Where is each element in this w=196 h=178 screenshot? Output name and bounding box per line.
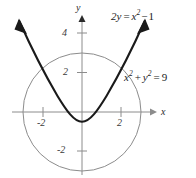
y-tick-label-4: 4: [62, 28, 67, 38]
parabola-left-arrow: [15, 19, 28, 35]
circle-eq-plus: +: [135, 71, 141, 83]
y-tick-label-2: 2: [63, 67, 68, 77]
x-axis-label: x: [161, 107, 165, 117]
x-axis: [12, 107, 157, 117]
parabola-equation-label: 2y=x2−1: [111, 9, 154, 22]
x-tick-label-neg2: -2: [37, 118, 45, 128]
x-tick-label-2: 2: [117, 118, 122, 128]
y-tick-label-neg2: -2: [57, 145, 65, 155]
parabola-eq-const: 1: [148, 10, 154, 22]
circle-eq-rhs: 9: [162, 71, 168, 83]
y-axis-label: y: [76, 3, 80, 13]
parabola-eq-rhs-exp: 2: [137, 8, 141, 17]
circle-eq-t2-exp: 2: [148, 69, 152, 78]
parabola-eq-minus: −: [141, 10, 147, 22]
circle-equation-label: x2+y2=9: [124, 70, 167, 83]
y-axis: [77, 15, 87, 175]
parabola-eq-lhs-var: y: [117, 10, 122, 22]
plot-canvas: [0, 0, 196, 178]
circle-eq-t1-exp: 2: [129, 69, 133, 78]
circle-eq-equals: =: [153, 71, 159, 83]
math-figure: y x -2 2 4 2 -2 2y=x2−1 x2+y2=9: [0, 0, 196, 178]
parabola-eq-equals: =: [123, 10, 129, 22]
